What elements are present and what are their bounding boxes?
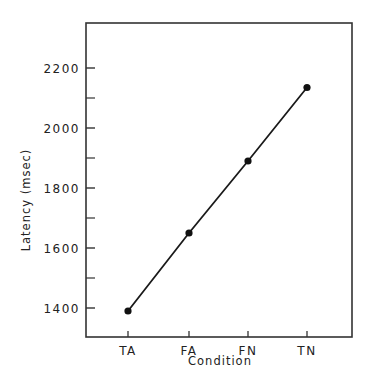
y-tick-label: 2000: [43, 122, 80, 136]
data-point-marker: [185, 229, 192, 236]
y-tick-label: 1400: [43, 302, 80, 316]
y-axis-title: Latency (msec): [19, 149, 33, 252]
x-axis-title: Condition: [188, 354, 252, 368]
data-point-marker: [244, 157, 251, 164]
x-tick-label: TN: [296, 344, 316, 358]
plot-frame: [86, 23, 352, 337]
y-axis-ticks: [86, 68, 95, 308]
data-point-marker: [124, 307, 131, 314]
line-chart: 14001600180020002200 TAFAFNTN Condition …: [0, 0, 371, 391]
latency-line: [128, 88, 307, 312]
y-tick-label: 1800: [43, 182, 80, 196]
y-tick-label: 1600: [43, 242, 80, 256]
data-point-marker: [303, 84, 310, 91]
y-axis-tick-labels: 14001600180020002200: [43, 62, 80, 316]
x-tick-label: TA: [118, 344, 137, 358]
y-tick-label: 2200: [43, 62, 80, 76]
x-axis-ticks: [128, 331, 307, 337]
